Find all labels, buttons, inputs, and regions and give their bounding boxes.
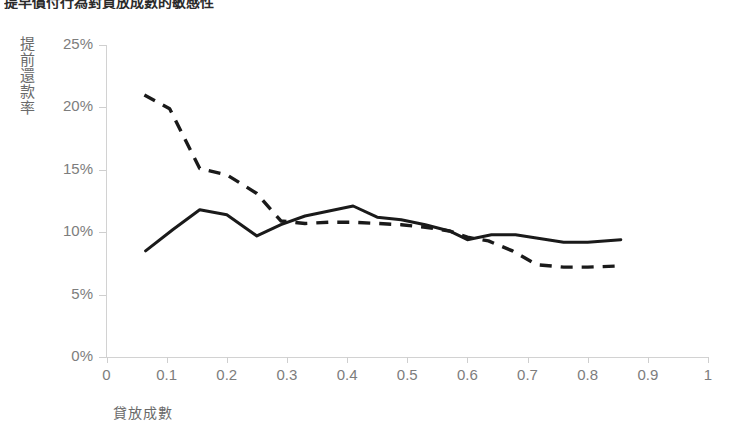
plot-area: 25%20%15%10%5%0% 00.10.20.30.40.50.60.70… (0, 0, 736, 432)
series-plot (0, 0, 736, 432)
series-line-solid (146, 206, 621, 251)
